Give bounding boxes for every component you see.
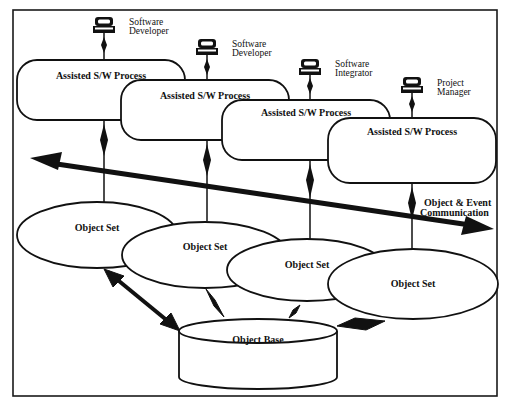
user-workstation-4: Project Manager — [401, 77, 472, 118]
process-label: Assisted S/W Process — [56, 70, 146, 81]
object-set-4: Object Set — [328, 249, 498, 319]
architecture-diagram: Software Developer Software Developer So… — [0, 0, 509, 410]
object-set-label: Object Set — [285, 259, 330, 270]
user-workstation-2: Software Developer — [196, 39, 272, 80]
process-box-4: Assisted S/W Process — [328, 118, 496, 183]
object-set-label: Object Set — [183, 241, 228, 252]
computer-icon — [196, 39, 218, 55]
process-label: Assisted S/W Process — [367, 126, 457, 137]
process-label: Assisted S/W Process — [160, 90, 250, 101]
object-set-label: Object Set — [75, 222, 120, 233]
object-base-cylinder: Object Base — [179, 319, 337, 389]
user-role-line2: Developer — [232, 48, 272, 58]
computer-icon — [93, 17, 115, 33]
user-role-line2: Integrator — [335, 68, 373, 78]
user-role-line2: Manager — [437, 87, 472, 97]
user-workstation-3: Software Integrator — [299, 59, 373, 100]
computer-icon — [299, 59, 321, 75]
computer-icon — [401, 77, 423, 93]
communication-label-line2: Communication — [420, 207, 489, 218]
object-base-label: Object Base — [232, 334, 284, 345]
user-workstation-1: Software Developer — [93, 17, 169, 60]
object-set-label: Object Set — [391, 278, 436, 289]
user-role-line2: Developer — [129, 26, 169, 36]
process-label: Assisted S/W Process — [261, 107, 351, 118]
